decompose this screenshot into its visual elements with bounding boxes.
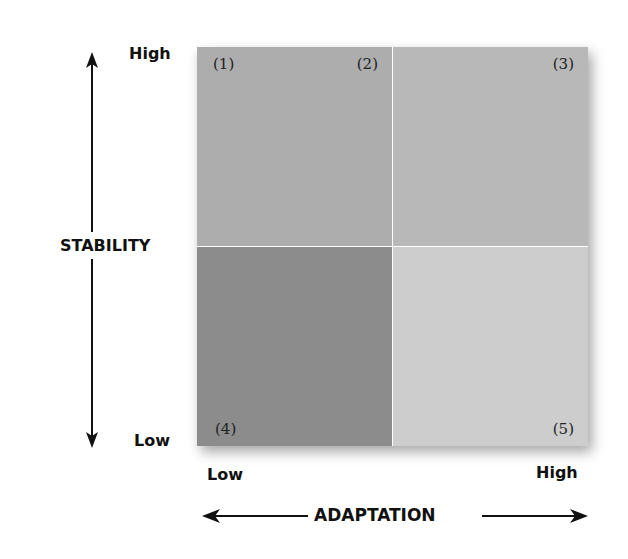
quadrant-label-4: (4) (215, 420, 236, 438)
quadrant-grid: (1) (2) (3) (4) (5) (197, 47, 588, 446)
adaptation-low-label: Low (207, 465, 243, 484)
adaptation-high-label: High (536, 463, 578, 482)
quadrant-label-1: (1) (213, 55, 234, 73)
stability-low-label: Low (134, 431, 170, 450)
quadrant-top-left: (1) (2) (197, 47, 392, 246)
quadrant-label-5: (5) (553, 420, 574, 438)
quadrant-label-3: (3) (553, 55, 574, 73)
quadrant-bottom-right: (5) (393, 247, 588, 446)
quadrant-top-right: (3) (393, 47, 588, 246)
adaptation-axis-title: ADAPTATION (314, 505, 436, 525)
stability-high-label: High (129, 44, 171, 63)
quadrant-bottom-left: (4) (197, 247, 392, 446)
stability-axis-title: STABILITY (60, 232, 150, 259)
quadrant-label-2: (2) (357, 55, 378, 73)
